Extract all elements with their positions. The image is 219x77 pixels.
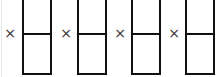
- blank-box-3: [131, 0, 161, 75]
- multiply-sign-2: ×: [59, 26, 73, 40]
- blank-box-1: [22, 0, 52, 75]
- box-2-divider: [79, 33, 105, 35]
- box-4-divider: [187, 33, 213, 35]
- blank-box-4: [185, 0, 215, 75]
- multiply-sign-4: ×: [167, 26, 181, 40]
- multiply-sign-1: ×: [3, 26, 17, 40]
- box-1-divider: [24, 33, 50, 35]
- blank-box-2: [77, 0, 107, 75]
- left-border-line: [1, 0, 2, 77]
- multiply-sign-3: ×: [113, 26, 127, 40]
- box-3-divider: [133, 33, 159, 35]
